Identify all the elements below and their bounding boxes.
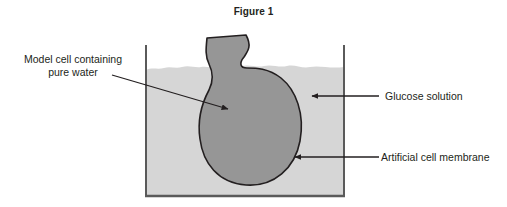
label-artificial-cell-membrane: Artificial cell membrane: [381, 151, 490, 164]
label-model-cell: Model cell containing pure water: [12, 53, 134, 79]
model-cell-shape: [199, 35, 301, 185]
label-glucose-solution: Glucose solution: [385, 90, 463, 103]
figure-container: Figure 1 M: [0, 0, 507, 207]
osmosis-diagram: [0, 0, 507, 207]
